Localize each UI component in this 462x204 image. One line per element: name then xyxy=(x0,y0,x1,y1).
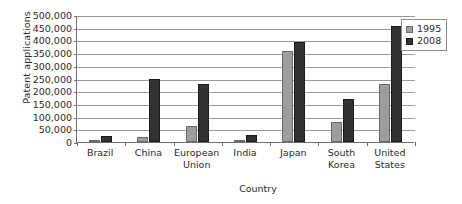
x-axis-tick xyxy=(125,142,126,146)
bar-group xyxy=(77,16,125,142)
y-axis-tick-label: 450,000 xyxy=(16,24,72,34)
y-axis-tick-label: 300,000 xyxy=(16,62,72,72)
y-axis-tick-label: 400,000 xyxy=(16,37,72,47)
bar-2008-japan xyxy=(294,42,305,142)
bar-group xyxy=(318,16,366,142)
x-axis-tick xyxy=(367,142,368,146)
patent-applications-bar-chart: Patent applications 500,000450,000400,00… xyxy=(0,0,462,204)
bar-2008-south-korea xyxy=(343,99,354,142)
x-axis-title: Country xyxy=(198,183,318,194)
y-axis-tick-labels: 500,000450,000400,000350,000300,000250,0… xyxy=(14,16,72,143)
bar-1995-brazil xyxy=(89,140,100,142)
x-axis-tick xyxy=(77,142,78,146)
legend-swatch-2008-icon xyxy=(406,38,413,45)
chart-legend: 1995 2008 xyxy=(401,19,447,51)
legend-item-1995: 1995 xyxy=(406,23,441,35)
y-axis-tick-label: 350,000 xyxy=(16,49,72,59)
bar-1995-european-union xyxy=(186,126,197,142)
bar-group xyxy=(125,16,173,142)
x-axis-tick xyxy=(318,142,319,146)
bar-2008-china xyxy=(149,79,160,142)
y-axis-tick-label: 0 xyxy=(16,138,72,148)
x-axis-tick xyxy=(270,142,271,146)
bar-1995-india xyxy=(234,140,245,142)
bar-1995-japan xyxy=(282,51,293,142)
plot-area xyxy=(76,16,414,143)
bar-1995-south-korea xyxy=(331,122,342,142)
y-axis-tick-label: 200,000 xyxy=(16,87,72,97)
bar-group xyxy=(174,16,222,142)
y-axis-tick-label: 50,000 xyxy=(16,126,72,136)
bar-2008-brazil xyxy=(101,136,112,142)
x-axis-tick-labels: BrazilChinaEuropeanUnionIndiaJapanSouthK… xyxy=(76,147,414,183)
x-axis-tick-label: UnitedStates xyxy=(355,147,425,170)
bar-2008-india xyxy=(246,135,257,142)
legend-label-1995: 1995 xyxy=(417,24,441,34)
legend-label-2008: 2008 xyxy=(417,36,441,46)
bar-1995-china xyxy=(137,137,148,142)
x-axis-tick xyxy=(174,142,175,146)
bar-1995-united-states xyxy=(379,84,390,142)
bar-group xyxy=(222,16,270,142)
x-axis-tick xyxy=(415,142,416,146)
y-axis-tick-label: 250,000 xyxy=(16,75,72,85)
bar-group xyxy=(270,16,318,142)
legend-item-2008: 2008 xyxy=(406,35,441,47)
y-axis-tick-label: 500,000 xyxy=(16,11,72,21)
y-axis-tick-label: 150,000 xyxy=(16,100,72,110)
legend-swatch-1995-icon xyxy=(406,26,413,33)
y-axis-tick-label: 100,000 xyxy=(16,113,72,123)
bar-2008-european-union xyxy=(198,84,209,142)
x-axis-tick xyxy=(222,142,223,146)
